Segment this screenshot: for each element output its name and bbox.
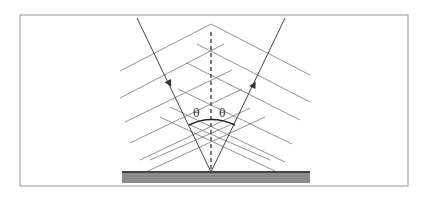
reflected-ray (211, 18, 285, 172)
incident-ray (137, 18, 211, 172)
wavefronts (120, 24, 310, 171)
reflection-diagram: θ θ (0, 0, 428, 200)
surface-edge (122, 171, 310, 173)
diagram-frame (20, 15, 408, 186)
incident-arrow-icon (165, 79, 174, 88)
theta-incident-label: θ (193, 107, 200, 120)
theta-reflected-label: θ (219, 107, 226, 120)
angle-arc (189, 120, 235, 126)
reflected-arrow-icon (249, 80, 258, 89)
